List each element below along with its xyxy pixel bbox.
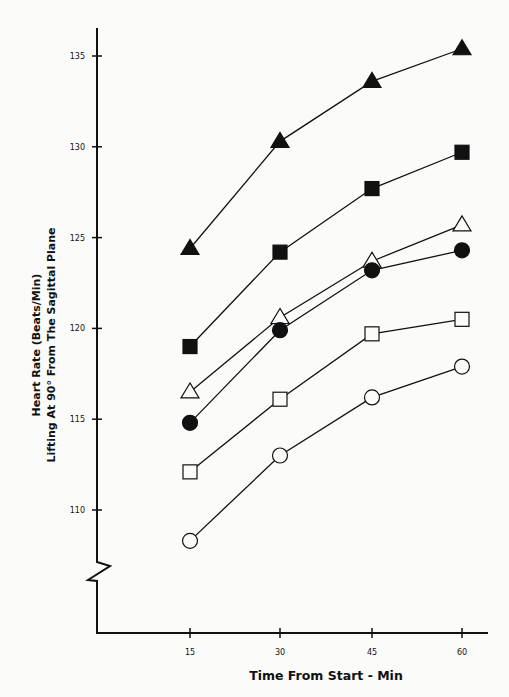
open-square-marker-icon (365, 327, 379, 341)
y-tick-label: 120 (70, 324, 85, 333)
y-axis-label-line-1: Heart Rate (Beats/Min) (30, 274, 43, 417)
filled-circle-marker-icon (455, 243, 470, 258)
filled-triangle-marker-icon (453, 40, 471, 55)
open-square-marker-icon (183, 465, 197, 479)
series-line-open-circle (190, 367, 462, 541)
y-axis-label-line-2: Lifting At 90° From The Sagittal Plane (45, 227, 58, 462)
filled-square-marker-icon (365, 182, 379, 196)
open-circle-marker-icon (273, 448, 288, 463)
series-line-filled-circle (190, 250, 462, 423)
y-tick-label: 130 (70, 143, 85, 152)
open-triangle-marker-icon (271, 309, 289, 324)
filled-triangle-marker-icon (271, 132, 289, 147)
filled-square-marker-icon (273, 245, 287, 259)
open-circle-marker-icon (183, 533, 198, 548)
filled-circle-marker-icon (273, 323, 288, 338)
x-tick-label: 30 (275, 648, 285, 657)
open-square-marker-icon (455, 312, 469, 326)
open-circle-marker-icon (455, 359, 470, 374)
y-tick-label: 135 (70, 52, 85, 61)
x-tick-label: 15 (185, 648, 195, 657)
series-lines (190, 49, 462, 541)
axes: 11011512012513013515304560 (70, 28, 488, 657)
x-tick-label: 60 (457, 648, 467, 657)
open-square-marker-icon (273, 392, 287, 406)
y-tick-label: 115 (70, 415, 85, 424)
series-markers (181, 40, 471, 549)
x-axis-label: Time From Start - Min (249, 668, 403, 683)
open-circle-marker-icon (365, 390, 380, 405)
y-tick-label: 125 (70, 234, 85, 243)
series-line-filled-square (190, 152, 462, 346)
series-line-filled-triangle (190, 49, 462, 249)
open-triangle-marker-icon (181, 383, 199, 398)
filled-circle-marker-icon (365, 263, 380, 278)
y-tick-label: 110 (70, 506, 85, 515)
filled-square-marker-icon (183, 340, 197, 354)
x-tick-label: 45 (367, 648, 377, 657)
filled-circle-marker-icon (183, 415, 198, 430)
open-triangle-marker-icon (453, 216, 471, 231)
line-chart: 11011512012513013515304560 Time From Sta… (0, 0, 509, 697)
filled-square-marker-icon (455, 145, 469, 159)
filled-triangle-marker-icon (363, 72, 381, 87)
series-line-open-square (190, 319, 462, 472)
